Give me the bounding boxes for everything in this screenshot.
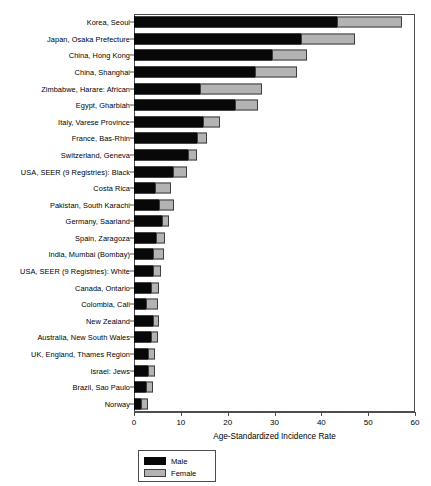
category-label: USA, SEER (9 Registries): White (20, 267, 130, 276)
bar-segment-female (153, 266, 161, 277)
bar-segment-male (134, 149, 188, 160)
category-row: Israel: Jews (0, 362, 431, 379)
category-row: Australia, New South Wales (0, 329, 431, 346)
bar-segment-male (134, 266, 153, 277)
stacked-bar (134, 149, 197, 160)
bar-segment-female (203, 116, 220, 127)
bar-segment-female (156, 232, 165, 243)
category-label: Brazil, Sao Paulo (72, 383, 130, 392)
bar-segment-female (235, 100, 258, 111)
stacked-bar (134, 315, 159, 326)
category-row: Zimbabwe, Harare: African (0, 80, 431, 97)
bar-segment-male (134, 249, 153, 260)
category-label: Egypt, Gharbiah (76, 101, 130, 110)
legend-label-female: Female (171, 469, 196, 478)
category-row: India, Mumbai (Bombay) (0, 246, 431, 263)
bar-segment-female (197, 133, 207, 144)
chart-legend: Male Female (138, 450, 216, 482)
bar-segment-female (151, 282, 159, 293)
category-label: Canada, Ontario (75, 283, 130, 292)
bar-segment-female (188, 149, 197, 160)
bar-segment-male (134, 382, 146, 393)
x-tick (181, 412, 182, 416)
stacked-bar (134, 166, 187, 177)
category-label: Pakistan, South Karachi (50, 200, 130, 209)
stacked-bar (134, 266, 161, 277)
bar-segment-male (134, 67, 255, 78)
stacked-bar (134, 216, 169, 227)
x-tick (228, 412, 229, 416)
bar-segment-male (134, 315, 153, 326)
stacked-bar (134, 33, 355, 44)
stacked-bar (134, 348, 155, 359)
x-tick (368, 412, 369, 416)
bar-segment-male (134, 348, 148, 359)
category-row: China, Hong Kong (0, 47, 431, 64)
bar-segment-female (148, 348, 155, 359)
bar-segment-male (134, 166, 173, 177)
category-row: Egypt, Gharbiah (0, 97, 431, 114)
stacked-bar (134, 232, 165, 243)
x-tick (134, 412, 135, 416)
category-label: Israel: Jews (90, 366, 130, 375)
bar-segment-female (159, 199, 174, 210)
category-row: Pakistan, South Karachi (0, 196, 431, 213)
x-tick-label: 60 (411, 418, 420, 427)
category-row: Brazil, Sao Paulo (0, 379, 431, 396)
bar-segment-female (173, 166, 187, 177)
bar-segment-male (134, 282, 151, 293)
x-tick (321, 412, 322, 416)
bar-segment-female (272, 50, 307, 61)
category-label: Germany, Saarland (66, 217, 130, 226)
bar-segment-female (200, 83, 262, 94)
category-row: Italy, Varese Province (0, 114, 431, 131)
x-tick-label: 20 (223, 418, 232, 427)
bar-segment-female (141, 398, 148, 409)
bar-segment-male (134, 183, 155, 194)
category-label: Zimbabwe, Harare: African (41, 84, 130, 93)
bar-segment-female (337, 17, 402, 28)
category-row: USA, SEER (9 Registries): White (0, 263, 431, 280)
stacked-bar (134, 183, 171, 194)
x-tick-label: 50 (364, 418, 373, 427)
bar-segment-male (134, 332, 151, 343)
category-label: Norway (105, 399, 130, 408)
category-row: Canada, Ontario (0, 279, 431, 296)
bar-segment-male (134, 216, 162, 227)
category-row: China, Shanghai (0, 64, 431, 81)
category-label: China, Shanghai (75, 68, 130, 77)
category-label: Italy, Varese Province (58, 117, 130, 126)
bar-segment-male (134, 33, 301, 44)
stacked-bar (134, 382, 153, 393)
category-row: Costa Rica (0, 180, 431, 197)
stacked-bar (134, 50, 307, 61)
stacked-bar (134, 83, 262, 94)
bar-segment-female (146, 299, 158, 310)
category-label: Colombia, Cali (81, 300, 130, 309)
category-row: Switzerland, Geneva (0, 147, 431, 164)
stacked-bar (134, 365, 155, 376)
bar-segment-female (146, 382, 153, 393)
category-row: Germany, Saarland (0, 213, 431, 230)
category-label: Japan, Osaka Prefecture (47, 34, 130, 43)
category-label: Switzerland, Geneva (61, 150, 130, 159)
stacked-bar (134, 199, 174, 210)
legend-swatch-female-icon (144, 469, 166, 477)
category-label: Australia, New South Wales (37, 333, 130, 342)
category-label: France, Bas-Rhin (72, 134, 130, 143)
category-row: France, Bas-Rhin (0, 130, 431, 147)
x-axis-title: Age-Standardized Incidence Rate (134, 432, 415, 441)
category-row: New Zealand (0, 313, 431, 330)
bar-segment-male (134, 398, 141, 409)
x-tick-label: 40 (317, 418, 326, 427)
bar-segment-female (153, 315, 159, 326)
category-row: Japan, Osaka Prefecture (0, 31, 431, 48)
category-row: UK, England, Thames Region (0, 346, 431, 363)
stacked-bar (134, 299, 158, 310)
category-label: India, Mumbai (Bombay) (48, 250, 130, 259)
stacked-bar (134, 282, 159, 293)
stacked-bar (134, 133, 207, 144)
category-label: UK, England, Thames Region (31, 349, 130, 358)
x-tick-label: 0 (132, 418, 136, 427)
category-label: Costa Rica (93, 184, 130, 193)
